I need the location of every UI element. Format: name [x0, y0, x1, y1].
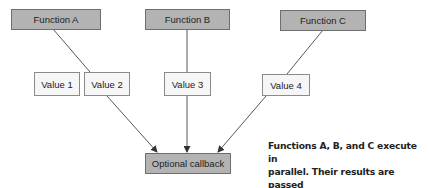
function-c-label: Function C: [300, 15, 346, 26]
function-b-node: Function B: [145, 9, 230, 30]
value-1-node: Value 1: [34, 72, 80, 96]
diagram-canvas: Function A Function B Function C Value 1…: [0, 0, 429, 188]
annotation-line-2: parallel. Their results are passed: [268, 165, 428, 188]
value-4-node: Value 4: [262, 74, 310, 96]
optional-callback-node: Optional callback: [145, 153, 231, 174]
function-b-label: Function B: [165, 14, 210, 25]
value-3-node: Value 3: [164, 72, 211, 96]
value-2-label: Value 2: [91, 79, 123, 90]
function-a-node: Function A: [11, 9, 101, 30]
function-c-node: Function C: [280, 10, 366, 31]
annotation-line-1: Functions A, B, and C execute in: [268, 139, 428, 165]
edge-function-a-value-2: [53, 29, 90, 72]
value-4-label: Value 4: [270, 80, 302, 91]
arrow-value-2-callback: [107, 96, 157, 152]
optional-callback-label: Optional callback: [152, 158, 224, 169]
value-2-node: Value 2: [84, 72, 130, 96]
edge-function-c-value-4: [287, 30, 323, 74]
annotation-text: Functions A, B, and C execute in paralle…: [268, 139, 428, 188]
value-3-label: Value 3: [172, 79, 204, 90]
arrow-value-4-callback: [218, 96, 266, 152]
value-1-label: Value 1: [41, 79, 73, 90]
function-a-label: Function A: [34, 14, 79, 25]
